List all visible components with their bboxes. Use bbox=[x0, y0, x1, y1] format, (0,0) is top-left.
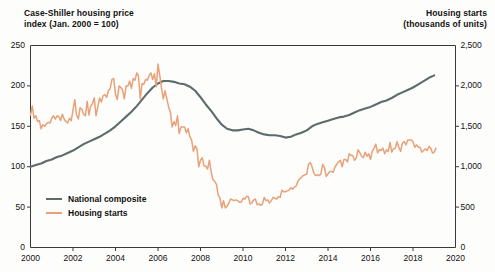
legend-swatch-icon bbox=[46, 198, 62, 201]
x-tick-label-2008: 2008 bbox=[181, 254, 221, 263]
axis-ticks bbox=[27, 86, 459, 251]
series-line-2 bbox=[31, 64, 437, 208]
left-tick-label-0: 0 bbox=[0, 243, 25, 252]
data-series bbox=[31, 64, 437, 208]
chart-container: Case-Shiller housing price index (Jan. 2… bbox=[0, 0, 495, 272]
legend-swatch-icon bbox=[46, 212, 62, 215]
x-tick-label-2002: 2002 bbox=[53, 254, 93, 263]
legend-item-2[interactable]: Housing starts bbox=[46, 206, 146, 220]
right-tick-label-2,500: 2,500 bbox=[461, 41, 482, 50]
left-tick-label-150: 150 bbox=[0, 122, 25, 131]
right-tick-label-1,500: 1,500 bbox=[461, 122, 482, 131]
left-tick-label-50: 50 bbox=[0, 203, 25, 212]
x-tick-label-2000: 2000 bbox=[11, 254, 51, 263]
right-tick-label-0: 0 bbox=[461, 243, 466, 252]
x-tick-label-2012: 2012 bbox=[266, 254, 306, 263]
x-tick-label-2010: 2010 bbox=[223, 254, 263, 263]
series-line-1 bbox=[31, 75, 435, 166]
x-tick-label-2004: 2004 bbox=[96, 254, 136, 263]
legend-label: National composite bbox=[68, 194, 146, 204]
x-tick-label-2020: 2020 bbox=[436, 254, 476, 263]
legend-item-1[interactable]: National composite bbox=[46, 192, 146, 206]
left-tick-label-250: 250 bbox=[0, 41, 25, 50]
right-tick-label-1,000: 1,000 bbox=[461, 162, 482, 171]
x-tick-label-2018: 2018 bbox=[393, 254, 433, 263]
left-tick-label-100: 100 bbox=[0, 162, 25, 171]
right-tick-label-500: 500 bbox=[461, 203, 475, 212]
plot-area bbox=[0, 0, 495, 272]
right-tick-label-2,000: 2,000 bbox=[461, 81, 482, 90]
x-tick-label-2014: 2014 bbox=[308, 254, 348, 263]
left-tick-label-200: 200 bbox=[0, 81, 25, 90]
chart-legend: National compositeHousing starts bbox=[46, 192, 146, 220]
x-tick-label-2006: 2006 bbox=[138, 254, 178, 263]
legend-label: Housing starts bbox=[68, 208, 128, 218]
x-tick-label-2016: 2016 bbox=[351, 254, 391, 263]
